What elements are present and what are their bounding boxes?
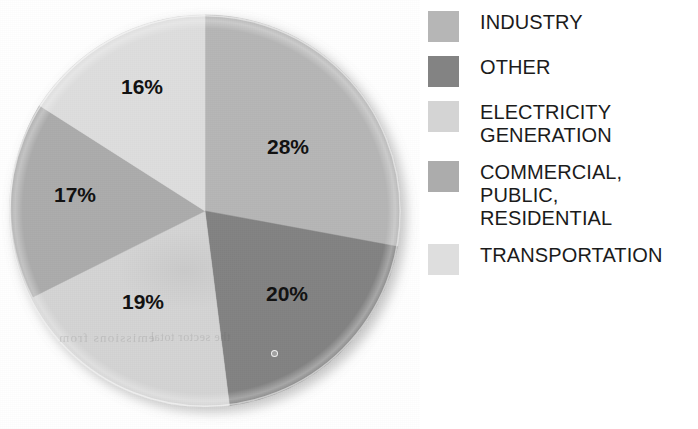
legend-item-commercial-public-residential[interactable]: COMMERCIAL, PUBLIC, RESIDENTIAL <box>428 160 698 230</box>
pie-chart-figure: 28% 20% 19% 17% 16% emissions from the s… <box>0 0 698 429</box>
legend-swatch-electricity-generation <box>428 101 459 132</box>
legend-label-electricity-generation: ELECTRICITY GENERATION <box>480 100 612 147</box>
pie-label-transportation: 16% <box>121 75 163 98</box>
legend-swatch-other <box>428 56 459 87</box>
legend-swatch-commercial-public-residential <box>428 161 459 192</box>
pie-chart-area: 28% 20% 19% 17% 16% emissions from the s… <box>0 0 420 429</box>
legend-label-industry: INDUSTRY <box>480 10 583 34</box>
legend-label-commercial-public-residential: COMMERCIAL, PUBLIC, RESIDENTIAL <box>480 160 622 230</box>
legend-item-industry[interactable]: INDUSTRY <box>428 10 698 42</box>
pie-chart-svg: 28% 20% 19% 17% 16% <box>0 0 420 429</box>
legend-item-transportation[interactable]: TRANSPORTATION <box>428 243 698 275</box>
chart-legend: INDUSTRY OTHER ELECTRICITY GENERATION CO… <box>428 10 698 288</box>
pie-label-other: 20% <box>266 282 308 305</box>
pie-label-commercial-public-residential: 17% <box>54 183 96 206</box>
pie-disc <box>9 15 401 407</box>
pie-rim-highlight <box>9 15 401 407</box>
legend-swatch-transportation <box>428 244 459 275</box>
pie-label-industry: 28% <box>267 135 309 158</box>
legend-label-transportation: TRANSPORTATION <box>480 243 663 267</box>
pie-label-electricity-generation: 19% <box>122 290 164 313</box>
legend-item-electricity-generation[interactable]: ELECTRICITY GENERATION <box>428 100 698 147</box>
legend-label-other: OTHER <box>480 55 551 79</box>
legend-item-other[interactable]: OTHER <box>428 55 698 87</box>
legend-swatch-industry <box>428 11 459 42</box>
